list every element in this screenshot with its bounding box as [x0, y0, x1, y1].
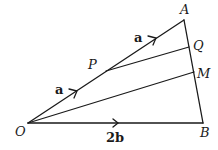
- label-o: O: [15, 124, 26, 139]
- label-a: A: [179, 2, 189, 17]
- label-m: M: [196, 66, 211, 81]
- vector-label-op: a: [55, 82, 64, 97]
- label-q: Q: [193, 38, 204, 53]
- line-pq: [106, 47, 189, 71]
- label-b: B: [199, 125, 210, 140]
- label-p: P: [87, 57, 97, 72]
- vector-label-pa: a: [134, 30, 143, 45]
- line-om: [28, 72, 194, 123]
- vector-diagram: A Q M P O B a a 2b: [0, 0, 218, 150]
- vector-label-ob: 2b: [106, 130, 124, 145]
